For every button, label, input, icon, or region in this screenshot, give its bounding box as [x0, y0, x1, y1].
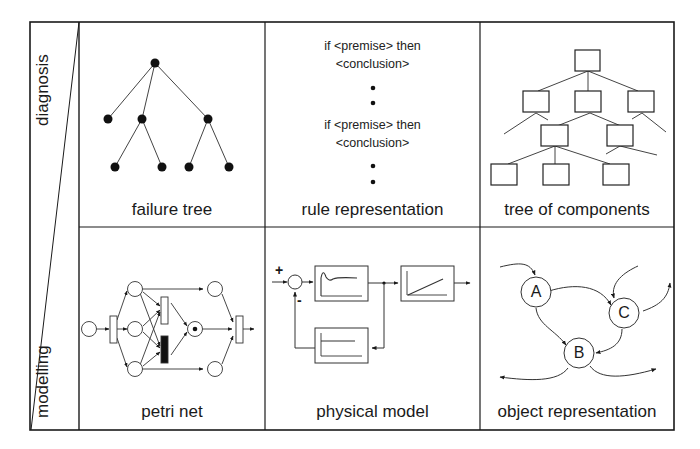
rule-2-conclusion: <conclusion>	[265, 136, 480, 150]
node-label-b: B	[569, 344, 589, 362]
row-label-diagnosis: diagnosis	[33, 66, 53, 126]
petri-net-diagram	[82, 282, 255, 377]
rule-2-premise: if <premise> then	[265, 118, 480, 132]
caption-object-representation: object representation	[480, 402, 674, 422]
rule-1-conclusion: <conclusion>	[265, 57, 480, 71]
caption-failure-tree: failure tree	[79, 200, 265, 220]
rule-1-premise: if <premise> then	[265, 39, 480, 53]
caption-physical-model: physical model	[265, 402, 480, 422]
token	[193, 327, 198, 332]
plus-sign: +	[275, 262, 283, 278]
row-label-modelling: modelling	[33, 346, 53, 418]
tree-of-components-diagram	[491, 50, 666, 185]
node-label-c: C	[614, 304, 634, 322]
minus-sign: -	[297, 292, 302, 308]
caption-rule-representation: rule representation	[265, 200, 480, 220]
rule-ellipsis-dots	[371, 86, 376, 185]
knowledge-representation-matrix: diagnosis modelling if <premise> then <c…	[0, 0, 700, 449]
node-label-a: A	[526, 283, 546, 301]
caption-tree-of-components: tree of components	[480, 200, 674, 220]
physical-model-diagram	[272, 266, 470, 363]
object-representation-diagram	[500, 264, 670, 380]
caption-petri-net: petri net	[79, 402, 265, 422]
failure-tree-diagram	[104, 59, 234, 172]
grid-lines	[30, 22, 674, 430]
